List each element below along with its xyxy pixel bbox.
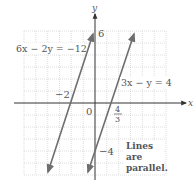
graph: x y 6x − 2y = −12 3x − y = 4 6 −2 0 4 3 … <box>0 0 195 183</box>
parallel-note-line2: are <box>126 152 143 162</box>
x-intercept-neg2-label: −2 <box>55 89 70 100</box>
x-intercept-fraction-denominator: 3 <box>115 115 120 124</box>
parallel-note-line1: Lines <box>126 141 153 151</box>
x-axis-label: x <box>188 98 193 108</box>
parallel-note-line3: parallel. <box>126 163 168 173</box>
x-intercept-fraction-numerator: 4 <box>115 105 120 114</box>
origin-label: 0 <box>86 106 92 117</box>
y-axis-label: y <box>91 3 98 13</box>
line1-equation-label: 6x − 2y = −12 <box>16 43 87 54</box>
y-intercept-6-label: 6 <box>98 28 104 39</box>
y-intercept-neg4-label: −4 <box>99 146 114 157</box>
line2-equation-label: 3x − y = 4 <box>121 77 172 88</box>
